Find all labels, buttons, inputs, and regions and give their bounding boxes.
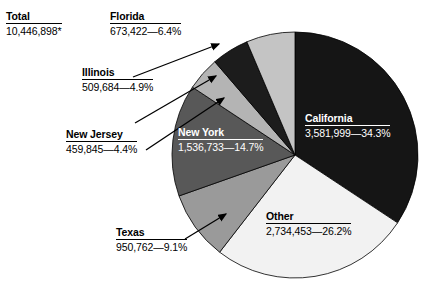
callout-illinois-name: Illinois [82,66,153,78]
slice-label-other: Other 2,734,453—26.2% [266,210,351,237]
slice-label-california-underline [305,125,390,126]
slice-label-other-name: Other [266,210,351,222]
slice-label-other-value: 2,734,453—26.2% [266,225,351,237]
callout-new-jersey-underline [66,141,137,142]
callout-florida: Florida 673,422—6.4% [110,10,181,37]
slice-label-california-value: 3,581,999—34.3% [305,127,390,139]
callout-illinois-value: 509,684—4.9% [82,81,153,93]
callout-florida-value: 673,422—6.4% [110,25,181,37]
slice-label-california-name: California [305,112,390,124]
callout-texas-name: Texas [116,226,187,238]
total-label: Total [6,10,62,22]
callout-texas-value: 950,762—9.1% [116,241,187,253]
slice-label-new-york-value: 1,536,733—14.7% [178,141,263,153]
pie-chart-figure: Total 10,446,898* Florida 673,422—6.4% I… [0,0,432,285]
callout-new-jersey-name: New Jersey [66,128,137,140]
callout-florida-name: Florida [110,10,181,22]
total-callout: Total 10,446,898* [6,10,62,37]
callout-illinois-underline [82,79,153,80]
callout-texas: Texas 950,762—9.1% [116,226,187,253]
callout-illinois: Illinois 509,684—4.9% [82,66,153,93]
callout-florida-underline [110,23,181,24]
slice-label-new-york-underline [178,139,263,140]
callout-new-jersey-value: 459,845—4.4% [66,143,137,155]
slice-label-new-york-name: New York [178,126,263,138]
callout-texas-underline [116,239,187,240]
total-underline [6,23,62,24]
pie-slices-group [172,32,418,278]
callout-new-jersey: New Jersey 459,845—4.4% [66,128,137,155]
total-value: 10,446,898* [6,25,62,37]
slice-label-california: California 3,581,999—34.3% [305,112,390,139]
slice-label-other-underline [266,223,351,224]
slice-label-new-york: New York 1,536,733—14.7% [178,126,263,153]
